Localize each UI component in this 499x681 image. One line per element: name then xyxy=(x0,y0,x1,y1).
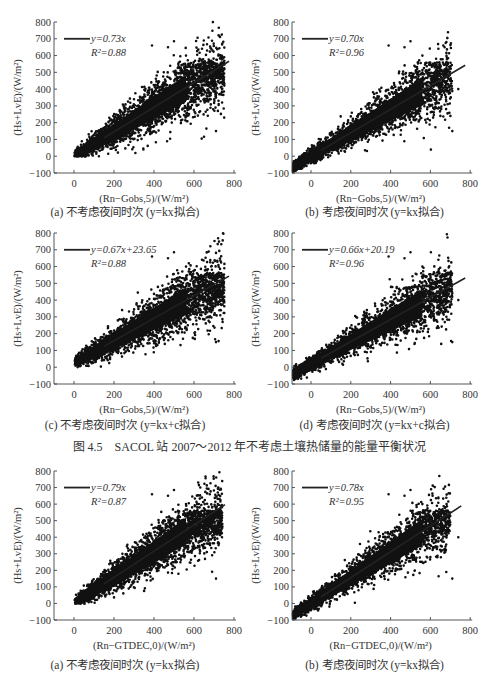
chart-4-5d: −100010020030040050060070080002004006008… xyxy=(250,218,499,433)
y-axis-label: (Hs+LvE)/(W/m²) xyxy=(12,270,24,347)
scatter-density xyxy=(75,518,186,604)
caption-4-5d: (d) 考虑夜间时次 (y=kx+c拟合) xyxy=(250,416,499,432)
y-tick-label: 500 xyxy=(273,67,289,78)
y-axis-label: (Hs+LvE)/(W/m²) xyxy=(250,270,262,347)
x-tick-label: 200 xyxy=(343,178,359,189)
x-axis-label: (Rn−GTDEC,0)/(W/m²) xyxy=(93,640,196,652)
x-tick-label: 800 xyxy=(226,389,242,400)
x-tick-label: 200 xyxy=(106,625,122,636)
x-tick-label: 800 xyxy=(226,178,242,189)
y-tick-label: 200 xyxy=(273,117,289,128)
y-tick-label: 700 xyxy=(273,244,289,255)
y-tick-label: 100 xyxy=(35,581,51,592)
y-tick-label: 200 xyxy=(35,565,51,576)
y-axis-label: (Hs+LvE)/(W/m²) xyxy=(250,507,262,584)
legend-r2: R²=0.87 xyxy=(90,496,127,507)
y-tick-label: 500 xyxy=(273,515,289,526)
y-tick-label: 500 xyxy=(273,278,289,289)
caption-4-5a: (a) 不考虑夜间时次 (y=kx拟合) xyxy=(0,203,250,219)
x-tick-label: 0 xyxy=(308,625,313,636)
y-tick-label: 600 xyxy=(35,261,51,272)
x-tick-label: 200 xyxy=(106,178,122,189)
y-tick-label: −100 xyxy=(267,615,289,626)
y-tick-label: 600 xyxy=(35,50,51,61)
y-tick-label: 100 xyxy=(35,134,51,145)
y-tick-label: 400 xyxy=(35,295,51,306)
legend-equation: y=0.66x+20.19 xyxy=(328,244,395,255)
y-tick-label: 0 xyxy=(284,362,289,373)
legend-r2: R²=0.88 xyxy=(90,47,127,58)
chart-4-5a: −100010020030040050060070080002004006008… xyxy=(0,0,250,215)
chart-4-5b: −100010020030040050060070080002004006008… xyxy=(250,0,499,215)
y-tick-label: 600 xyxy=(273,50,289,61)
x-axis-label: (Rn−Gobs,5)/(W/m²) xyxy=(99,404,189,416)
chart-4-5c: −100010020030040050060070080002004006008… xyxy=(0,218,250,433)
y-tick-label: 300 xyxy=(35,100,51,111)
y-tick-label: 500 xyxy=(35,515,51,526)
y-tick-label: 0 xyxy=(284,151,289,162)
y-tick-label: 600 xyxy=(273,261,289,272)
figure-caption: 图 4.5 SACOL 站 2007～2012 年不考虑土壤热储量的能量平衡状况 xyxy=(0,437,499,455)
x-tick-label: 600 xyxy=(423,178,439,189)
x-tick-label: 800 xyxy=(226,625,242,636)
x-tick-label: 400 xyxy=(146,178,162,189)
y-tick-label: 200 xyxy=(273,328,289,339)
x-tick-label: 0 xyxy=(308,178,313,189)
y-tick-label: 300 xyxy=(273,100,289,111)
y-tick-label: 400 xyxy=(35,84,51,95)
y-tick-label: 800 xyxy=(273,17,289,28)
x-tick-label: 200 xyxy=(343,625,359,636)
y-tick-label: 0 xyxy=(46,151,51,162)
legend-equation: y=0.73x xyxy=(90,33,126,44)
y-tick-label: 800 xyxy=(35,466,51,477)
legend-equation: y=0.78x xyxy=(328,482,364,493)
y-tick-label: 700 xyxy=(35,482,51,493)
fit-line xyxy=(321,278,465,358)
y-tick-label: 700 xyxy=(35,33,51,44)
x-tick-label: 600 xyxy=(186,625,202,636)
legend-r2: R²=0.88 xyxy=(90,258,127,269)
y-tick-label: 100 xyxy=(35,345,51,356)
caption-4-6a: (a) 不考虑夜间时次 (y=kx拟合) xyxy=(0,656,250,672)
fit-line xyxy=(321,65,465,150)
legend-equation: y=0.70x xyxy=(328,33,364,44)
y-tick-label: 400 xyxy=(273,295,289,306)
y-tick-label: 200 xyxy=(35,328,51,339)
y-tick-label: 300 xyxy=(273,548,289,559)
y-tick-label: 400 xyxy=(273,532,289,543)
chart-4-6b: −100010020030040050060070080002004006008… xyxy=(250,455,499,681)
y-tick-label: 600 xyxy=(35,499,51,510)
y-tick-label: −100 xyxy=(29,379,51,390)
y-tick-label: 700 xyxy=(273,482,289,493)
scatter-density xyxy=(292,289,422,379)
y-tick-label: 700 xyxy=(273,33,289,44)
x-axis-label: (Rn−GTDEC,0)/(W/m²) xyxy=(330,640,433,652)
x-tick-label: 0 xyxy=(71,389,76,400)
x-tick-label: 400 xyxy=(383,178,399,189)
y-tick-label: 300 xyxy=(273,311,289,322)
legend-r2: R²=0.96 xyxy=(328,258,365,269)
y-tick-label: 700 xyxy=(35,244,51,255)
y-tick-label: 300 xyxy=(35,311,51,322)
y-tick-label: 400 xyxy=(35,532,51,543)
caption-4-5b: (b) 考虑夜间时次 (y=kx拟合) xyxy=(250,203,499,219)
y-tick-label: −100 xyxy=(267,379,289,390)
y-axis-label: (Hs+LvE)/(W/m²) xyxy=(12,507,24,584)
chart-4-6a: −100010020030040050060070080002004006008… xyxy=(0,455,250,681)
y-axis-label: (Hs+LvE)/(W/m²) xyxy=(250,59,262,136)
caption-4-5c: (c) 不考虑夜间时次 (y=kx+c拟合) xyxy=(0,416,250,432)
x-tick-label: 0 xyxy=(308,389,313,400)
x-tick-label: 600 xyxy=(423,625,439,636)
y-tick-label: 100 xyxy=(273,345,289,356)
y-tick-label: −100 xyxy=(29,168,51,179)
y-tick-label: 800 xyxy=(35,228,51,239)
y-tick-label: 800 xyxy=(35,17,51,28)
y-tick-label: 0 xyxy=(46,598,51,609)
y-tick-label: 0 xyxy=(284,598,289,609)
x-tick-label: 800 xyxy=(462,178,478,189)
x-tick-label: 800 xyxy=(462,625,478,636)
x-tick-label: 200 xyxy=(343,389,359,400)
y-tick-label: −100 xyxy=(29,615,51,626)
caption-4-6b: (b) 考虑夜间时次 (y=kx拟合) xyxy=(250,656,499,672)
y-tick-label: 0 xyxy=(46,362,51,373)
